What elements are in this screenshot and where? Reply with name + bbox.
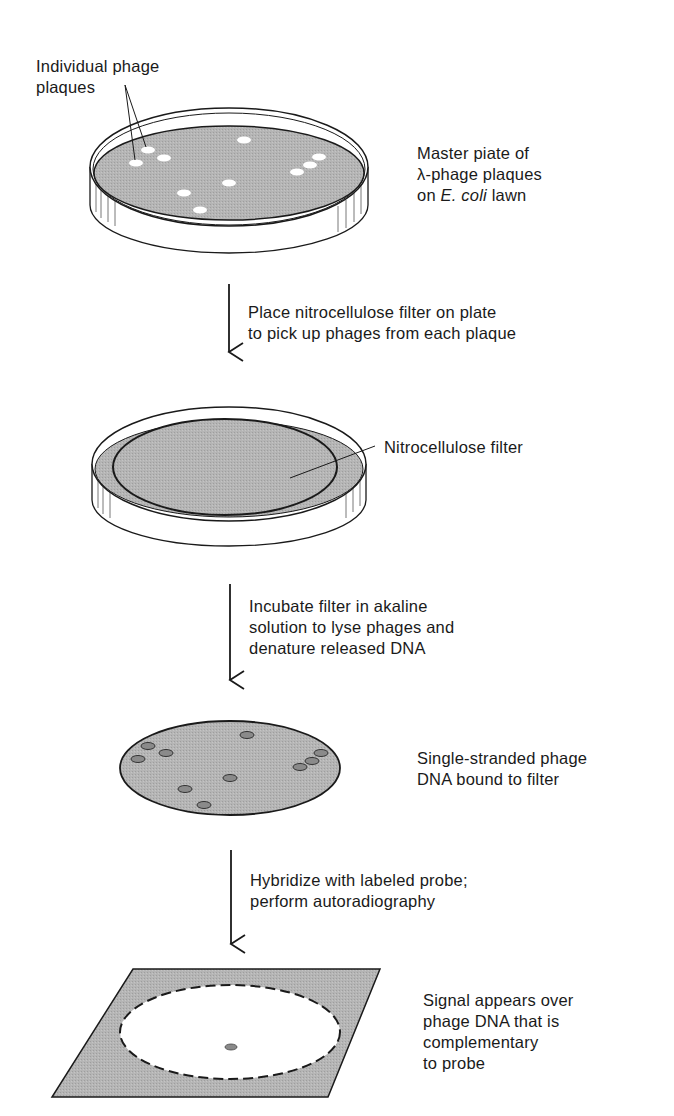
plaque (303, 162, 317, 169)
nitrocellulose-filter-label: Nitrocellulose filter (384, 437, 523, 458)
master-plate-label: Master piate of λ-phage plaques on E. co… (417, 143, 542, 206)
plaque (193, 207, 207, 214)
dna-spot (159, 750, 173, 757)
plaque (157, 155, 171, 162)
signal-label: Signal appears over phage DNA that is co… (423, 990, 574, 1074)
signal-spot (225, 1044, 237, 1050)
autoradiograph-film (52, 969, 380, 1097)
dna-spot (197, 802, 211, 809)
master-plate-dish (90, 85, 368, 253)
diagram-artwork (0, 0, 674, 1116)
bound-dna-label: Single-stranded phage DNA bound to filte… (417, 748, 587, 790)
dna-spot (293, 764, 307, 771)
step1-description: Place nitrocellulose filter on plate to … (248, 302, 516, 344)
dna-spot (240, 732, 254, 739)
plaque (177, 190, 191, 197)
plaque (222, 180, 236, 187)
filter-on-plate-dish (92, 407, 375, 546)
plaques-callout-label: Individual phage plaques (36, 56, 159, 98)
filter-disk-bound-dna (120, 721, 340, 815)
step2-description: Incubate filter in akaline solution to l… (249, 596, 454, 659)
dna-spot (314, 750, 328, 757)
plaque (141, 147, 155, 154)
plaque (129, 160, 143, 167)
dna-spot (305, 758, 319, 765)
dna-spot (178, 786, 192, 793)
dna-spot (223, 775, 237, 782)
plaque (312, 154, 326, 161)
dna-spot (141, 743, 155, 750)
dna-spot (131, 756, 145, 763)
plaque (290, 169, 304, 176)
plaque (237, 137, 251, 144)
step3-description: Hybridize with labeled probe; perform au… (250, 870, 468, 912)
